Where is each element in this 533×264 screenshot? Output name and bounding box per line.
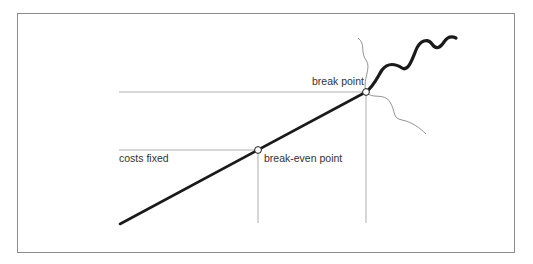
- wavy-continuation: [366, 37, 456, 92]
- diagram-frame: [18, 14, 515, 253]
- break-even-point-label: break-even point: [264, 152, 342, 164]
- thin-wavy-branch-lower: [366, 92, 426, 134]
- costs-fixed-label: costs fixed: [119, 152, 169, 164]
- break-point-marker: [363, 89, 370, 96]
- diagram-canvas: costs fixed break-even point break point: [0, 0, 533, 264]
- break-even-marker: [255, 147, 262, 154]
- break-point-label: break point: [312, 75, 364, 87]
